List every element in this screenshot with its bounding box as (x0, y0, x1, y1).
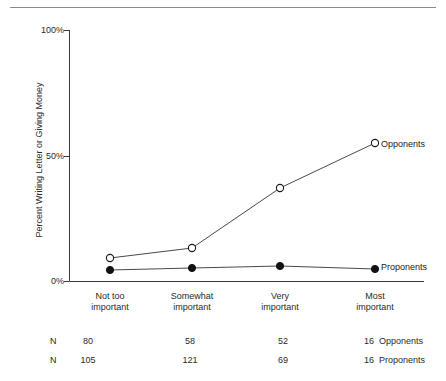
data-point-opponents-3 (371, 139, 378, 146)
n-row-0-value-3: 16 (340, 336, 374, 346)
data-point-proponents-0 (106, 266, 113, 273)
axis-lines (70, 30, 425, 282)
x-category-label-1-line1: Somewhat (144, 291, 240, 302)
x-category-label-2: Very important (232, 291, 328, 313)
x-category-label-3-line1: Most (327, 291, 423, 302)
x-category-label-2-line1: Very (232, 291, 328, 302)
y-axis-title: Percent Writing Letter or Giving Money (34, 53, 44, 268)
n-row-1-value-0: 105 (58, 355, 118, 365)
data-point-proponents-1 (188, 264, 195, 271)
n-row-0-value-1: 58 (160, 336, 220, 346)
x-category-label-2-line2: important (232, 302, 328, 313)
y-tick-label-0: 0% (16, 276, 64, 286)
data-point-opponents-0 (106, 254, 113, 261)
series-label-proponents: Proponents (381, 262, 427, 272)
data-point-opponents-2 (276, 184, 283, 191)
series-proponents-line (110, 266, 375, 270)
y-tick-label-100: 100% (16, 25, 64, 35)
table-row: N 80 58 52 16 Opponents (0, 336, 446, 355)
chart-page: 100% 50% 0% Percent Writing Letter or Gi… (0, 0, 446, 381)
x-category-label-3-line2: important (327, 302, 423, 313)
x-category-label-1-line2: important (144, 302, 240, 313)
n-row-1-series: Proponents (379, 355, 425, 365)
series-proponents (106, 262, 378, 273)
data-point-proponents-3 (371, 265, 378, 272)
data-point-proponents-2 (276, 262, 283, 269)
n-row-1-value-2: 69 (253, 355, 313, 365)
table-row: N 105 121 69 16 Proponents (0, 355, 446, 374)
n-row-1-value-3: 16 (340, 355, 374, 365)
n-row-1-value-1: 121 (160, 355, 220, 365)
x-category-label-1: Somewhat important (144, 291, 240, 313)
line-chart (0, 0, 446, 381)
n-row-0-value-2: 52 (253, 336, 313, 346)
y-axis-ticks (64, 31, 70, 282)
series-label-opponents: Opponents (381, 139, 425, 149)
n-row-0-series: Opponents (379, 336, 423, 346)
x-category-label-3: Most important (327, 291, 423, 313)
series-opponents-line (110, 143, 375, 258)
n-row-0-value-0: 80 (58, 336, 118, 346)
series-opponents (106, 139, 378, 261)
sample-size-table: N 80 58 52 16 Opponents N 105 121 69 16 … (0, 336, 446, 374)
data-point-opponents-1 (188, 244, 195, 251)
